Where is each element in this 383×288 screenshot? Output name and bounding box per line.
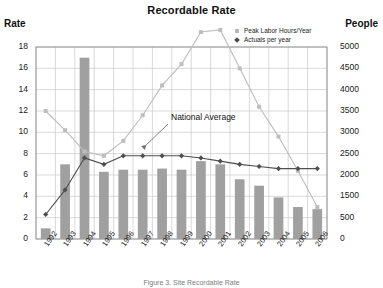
data-point	[141, 113, 145, 117]
y-tick-label-right: 4500	[340, 62, 374, 72]
y-tick-label-left: 8	[6, 148, 28, 158]
annotation-national-average: National Average	[171, 112, 236, 122]
data-point	[277, 135, 281, 139]
data-point	[63, 128, 67, 132]
y-tick-label-left: 16	[6, 62, 28, 72]
y-tick-label-left: 14	[6, 84, 28, 94]
y-tick-label-left: 4	[6, 190, 28, 200]
y-tick-label-right: 4000	[340, 84, 374, 94]
data-point	[121, 139, 125, 143]
y-tick-label-right: 500	[340, 212, 374, 222]
y-tick-label-left: 0	[6, 233, 28, 243]
y-tick-label-left: 12	[6, 105, 28, 115]
bar	[157, 169, 167, 239]
chart-container: Recordable Rate Rate People Peak Labor H…	[0, 0, 383, 288]
plot-area	[0, 0, 383, 288]
bar	[60, 164, 70, 239]
y-tick-label-left: 6	[6, 169, 28, 179]
data-point	[218, 28, 222, 32]
y-tick-label-right: 3500	[340, 105, 374, 115]
bar	[215, 164, 225, 239]
y-tick-label-left: 2	[6, 212, 28, 222]
y-tick-label-right: 1500	[340, 190, 374, 200]
y-tick-label-right: 0	[340, 233, 374, 243]
y-tick-label-left: 18	[6, 41, 28, 51]
y-tick-label-right: 2000	[340, 169, 374, 179]
y-tick-label-right: 2500	[340, 148, 374, 158]
bar	[118, 170, 128, 239]
bar	[138, 170, 148, 239]
data-point	[83, 150, 87, 154]
bar	[177, 170, 187, 239]
figure-caption: Figure 3. Site Recordable Rate	[0, 279, 383, 288]
bar	[99, 172, 109, 239]
data-point	[102, 154, 106, 158]
y-tick-label-right: 5000	[340, 41, 374, 51]
bar	[196, 161, 206, 239]
data-point	[315, 205, 319, 209]
data-point	[238, 66, 242, 70]
data-point	[199, 30, 203, 34]
data-point	[257, 105, 261, 109]
y-tick-label-right: 3000	[340, 126, 374, 136]
y-tick-label-left: 10	[6, 126, 28, 136]
data-point	[180, 62, 184, 66]
bar	[235, 179, 245, 239]
data-point	[44, 109, 48, 113]
data-point	[160, 83, 164, 87]
